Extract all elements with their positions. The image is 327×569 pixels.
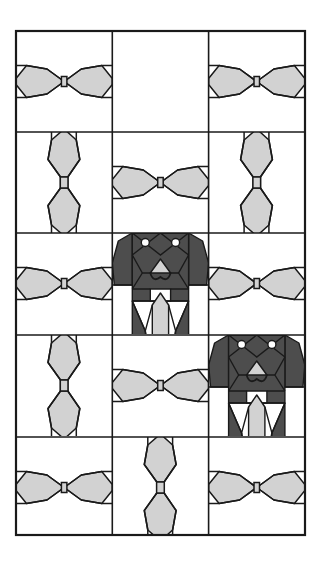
quilt-diagram xyxy=(0,0,327,569)
quilt-canvas xyxy=(0,0,327,569)
